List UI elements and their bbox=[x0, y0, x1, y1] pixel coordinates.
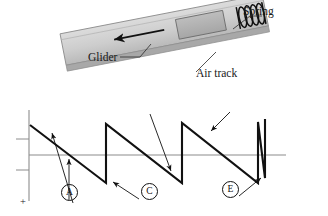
y-axis-tick-plus: + bbox=[16, 196, 26, 207]
velocity-time-graph: + 0 − Velocity Time A B C D E F bbox=[0, 86, 328, 215]
graph-marker-c: C bbox=[141, 183, 158, 200]
spring-label: Spring bbox=[243, 6, 274, 18]
figure-root: Spring Glider Air track bbox=[0, 0, 328, 215]
leader-arrow-e bbox=[211, 112, 230, 131]
apparatus-svg bbox=[0, 0, 328, 88]
y-axis-label: Velocity bbox=[6, 204, 17, 216]
apparatus-diagram: Spring Glider Air track bbox=[0, 0, 328, 88]
leader-arrow-c bbox=[150, 114, 171, 171]
graph-marker-a: A bbox=[61, 184, 78, 201]
leader-arrow-d bbox=[113, 182, 139, 199]
velocity-curve bbox=[30, 119, 265, 183]
glider-label: Glider bbox=[88, 52, 117, 64]
graph-marker-e: E bbox=[222, 181, 239, 198]
air-track-label: Air track bbox=[196, 68, 237, 80]
graph-svg bbox=[0, 86, 328, 215]
leader-arrow-f bbox=[239, 178, 261, 196]
